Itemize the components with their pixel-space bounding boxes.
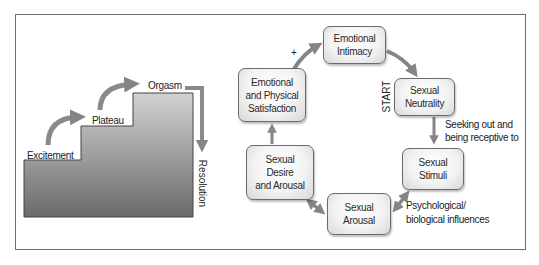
edge-label-seeking-1: Seeking out and bbox=[445, 119, 513, 131]
node-label: Emotional and Physical Satisfaction bbox=[245, 76, 298, 115]
start-label: START bbox=[381, 81, 392, 113]
arrow-stimuli-arousal bbox=[396, 195, 406, 208]
arrow-arousal-desire bbox=[310, 202, 321, 211]
edge-label-psych-1: Psychological/ bbox=[406, 200, 466, 212]
arrow-plateau-to-orgasm bbox=[100, 84, 132, 110]
stage-label-plateau: Plateau bbox=[92, 115, 124, 127]
stage-label-orgasm: Orgasm bbox=[148, 80, 182, 92]
arrow-satisfaction-to-intimacy bbox=[294, 46, 317, 69]
node-label: Sexual Stimuli bbox=[419, 156, 448, 182]
edge-label-seeking-2: being receptive to bbox=[445, 132, 519, 144]
plus-label: + bbox=[291, 47, 297, 59]
node-sexual-desire-arousal: Sexual Desire and Arousal bbox=[246, 145, 314, 200]
node-emotional-intimacy: Emotional Intimacy bbox=[323, 26, 386, 64]
arrow-intimacy-to-neutrality bbox=[387, 51, 414, 72]
node-label: Sexual Arousal bbox=[343, 201, 375, 227]
node-sexual-arousal: Sexual Arousal bbox=[327, 193, 391, 235]
stage-label-resolution: Resolution bbox=[197, 160, 208, 207]
node-sexual-neutrality: Sexual Neutrality bbox=[394, 78, 455, 116]
node-label: Sexual Desire and Arousal bbox=[255, 153, 305, 192]
edge-label-psych-2: biological influences bbox=[406, 214, 489, 226]
arrow-excitement-to-plateau bbox=[48, 117, 78, 145]
node-sexual-stimuli: Sexual Stimuli bbox=[402, 148, 464, 190]
node-label: Emotional Intimacy bbox=[334, 32, 376, 58]
stage-label-excitement: Excitement bbox=[27, 150, 73, 162]
node-label: Sexual Neutrality bbox=[405, 84, 444, 110]
node-emotional-physical-satisfaction: Emotional and Physical Satisfaction bbox=[238, 68, 306, 122]
